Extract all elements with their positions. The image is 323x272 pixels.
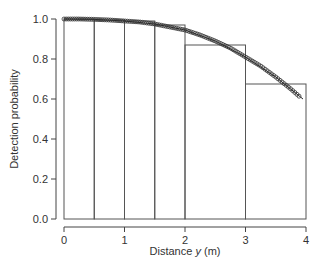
- histogram-bar: [185, 45, 246, 219]
- y-tick-label: 0.2: [33, 173, 48, 185]
- histogram-bars: [64, 19, 306, 219]
- x-axis: 01234: [61, 227, 309, 246]
- x-tick-label: 0: [61, 234, 67, 246]
- y-tick-label: 0.8: [33, 53, 48, 65]
- y-tick-label: 1.0: [33, 13, 48, 25]
- histogram-bar: [94, 20, 124, 219]
- y-tick-label: 0.4: [33, 133, 48, 145]
- histogram-bar: [246, 84, 307, 219]
- detection-probability-chart: 0.00.20.40.60.81.0 01234 Distance y (m) …: [0, 0, 323, 272]
- x-tick-label: 4: [303, 234, 309, 246]
- y-tick-label: 0.6: [33, 93, 48, 105]
- x-axis-title: Distance y (m): [150, 245, 221, 257]
- y-axis: 0.00.20.40.60.81.0: [33, 13, 56, 225]
- histogram-bar: [125, 21, 155, 219]
- x-tick-label: 3: [242, 234, 248, 246]
- y-axis-title: Detection probability: [8, 69, 20, 169]
- histogram-bar: [155, 25, 185, 219]
- y-tick-label: 0.0: [33, 213, 48, 225]
- x-tick-label: 1: [121, 234, 127, 246]
- histogram-bar: [64, 19, 94, 219]
